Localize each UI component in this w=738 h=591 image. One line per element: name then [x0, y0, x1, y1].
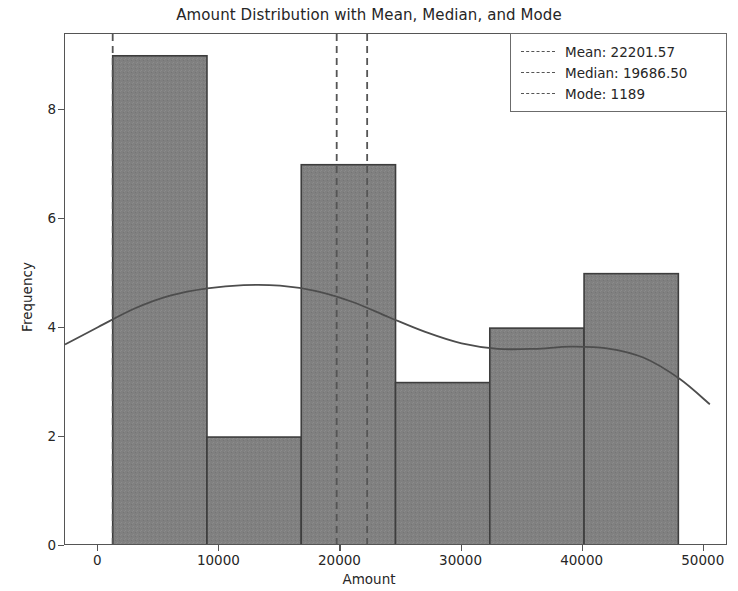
- legend-item-mean[interactable]: Mean: 22201.57: [521, 41, 718, 62]
- x-tick-mark: [97, 545, 98, 551]
- x-tick-label: 20000: [294, 552, 384, 568]
- y-axis-label: Frequency: [19, 237, 35, 357]
- y-tick-label: 6: [0, 210, 56, 226]
- x-axis-label: Amount: [0, 571, 738, 587]
- legend-item-mode[interactable]: Mode: 1189: [521, 83, 718, 104]
- x-tick-mark: [703, 545, 704, 551]
- x-tick-mark: [461, 545, 462, 551]
- y-tick-label: 0: [0, 537, 56, 553]
- y-tick-mark: [58, 545, 64, 546]
- x-tick-mark: [218, 545, 219, 551]
- legend-label-median: Median: 19686.50: [565, 65, 687, 81]
- x-tick-label: 10000: [173, 552, 263, 568]
- dashed-line-icon: [521, 72, 555, 73]
- x-tick-mark: [582, 545, 583, 551]
- x-tick-label: 40000: [537, 552, 627, 568]
- y-tick-label: 4: [0, 319, 56, 335]
- y-tick-label: 2: [0, 428, 56, 444]
- x-tick-label: 0: [52, 552, 142, 568]
- legend-label-mean: Mean: 22201.57: [565, 44, 675, 60]
- x-tick-label: 50000: [658, 552, 738, 568]
- dashed-line-icon: [521, 51, 555, 52]
- y-tick-label: 8: [0, 101, 56, 117]
- x-tick-mark: [339, 545, 340, 551]
- x-tick-label: 30000: [416, 552, 506, 568]
- legend-item-median[interactable]: Median: 19686.50: [521, 62, 718, 83]
- legend-box: Mean: 22201.57 Median: 19686.50 Mode: 11…: [510, 33, 727, 112]
- chart-title: Amount Distribution with Mean, Median, a…: [0, 6, 738, 24]
- legend-label-mode: Mode: 1189: [565, 86, 645, 102]
- histogram-figure: Amount Distribution with Mean, Median, a…: [0, 0, 738, 591]
- dashed-line-icon: [521, 93, 555, 94]
